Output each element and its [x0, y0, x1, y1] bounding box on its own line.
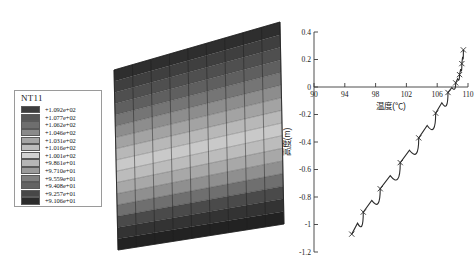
x-axis-tick-label: 94: [341, 90, 349, 99]
x-axis-title: 温度(℃): [376, 101, 406, 111]
y-axis-title: 高度(m): [282, 128, 292, 157]
temperature-profile-chart: 9094981021061100.40.20-0.2-0.4-0.6-0.8-1…: [280, 14, 475, 264]
nt11-legend-panel: NT11 +1.092e+02+1.077e+02+1.062e+02+1.04…: [14, 90, 102, 207]
legend-color-swatch: [21, 167, 40, 174]
legend-entry: +1.077e+02: [21, 114, 76, 122]
chart-axes: 9094981021061100.40.20-0.2-0.4-0.6-0.8-1…: [299, 28, 474, 257]
legend-entry: +9.861e+01: [21, 159, 76, 167]
legend-color-swatch: [21, 129, 40, 136]
y-axis-tick-label: -0.2: [299, 110, 311, 119]
nt11-contour-mesh: [112, 18, 292, 252]
legend-entry-label: +9.408e+01: [45, 182, 76, 189]
legend-entry-label: +9.559e+01: [45, 175, 76, 182]
legend-color-swatch: [21, 197, 40, 204]
x-axis-tick-label: 98: [372, 90, 380, 99]
legend-entry-label: +9.106e+01: [45, 197, 76, 204]
legend-entry: +9.257e+01: [21, 190, 76, 198]
legend-color-swatch: [21, 190, 40, 197]
legend-entry-label: +1.046e+02: [45, 129, 76, 136]
legend-entry-label: +1.077e+02: [45, 114, 76, 121]
y-axis-tick-label: -0.8: [299, 193, 311, 202]
figure-canvas: NT11 +1.092e+02+1.077e+02+1.062e+02+1.04…: [0, 0, 475, 273]
contour-band-group: [114, 22, 284, 250]
x-axis-tick-label: 102: [401, 90, 413, 99]
legend-color-swatch: [21, 106, 40, 113]
legend-color-swatch: [21, 137, 40, 144]
legend-entry: +9.710e+01: [21, 167, 76, 175]
x-axis-tick-label: 90: [310, 90, 318, 99]
y-axis-tick-label: -0.6: [299, 165, 311, 174]
legend-color-swatch: [21, 121, 40, 128]
legend-color-swatch: [21, 175, 40, 182]
legend-entry-label: +1.092e+02: [45, 106, 76, 113]
legend-entry-label: +1.016e+02: [45, 144, 76, 151]
y-axis-tick-label: -0.4: [299, 138, 311, 147]
legend-entry-label: +9.861e+01: [45, 159, 76, 166]
legend-color-swatch: [21, 144, 40, 151]
y-axis-tick-label: 0: [307, 83, 311, 92]
legend-entry: +9.408e+01: [21, 182, 76, 190]
profile-curve: [352, 50, 464, 234]
legend-entry: +1.031e+02: [21, 136, 76, 144]
x-axis-tick-label: 110: [462, 90, 473, 99]
legend-entry: +1.001e+02: [21, 152, 76, 160]
legend-entry-list: +1.092e+02+1.077e+02+1.062e+02+1.046e+02…: [21, 106, 76, 205]
y-axis-tick-label: -1: [305, 220, 312, 229]
legend-color-swatch: [21, 182, 40, 189]
y-axis-tick-label: 0.4: [302, 28, 312, 37]
legend-entry-label: +9.257e+01: [45, 190, 76, 197]
legend-entry: +1.092e+02: [21, 106, 76, 114]
legend-color-swatch: [21, 114, 40, 121]
legend-entry-label: +9.710e+01: [45, 167, 76, 174]
legend-entry-label: +1.031e+02: [45, 137, 76, 144]
legend-entry: +9.106e+01: [21, 197, 76, 205]
legend-entry-label: +1.001e+02: [45, 152, 76, 159]
legend-entry: +1.016e+02: [21, 144, 76, 152]
legend-entry: +1.062e+02: [21, 121, 76, 129]
x-axis-tick-label: 106: [432, 90, 444, 99]
legend-entry-label: +1.062e+02: [45, 121, 76, 128]
chart-data-series: [349, 47, 466, 236]
legend-color-swatch: [21, 152, 40, 159]
legend-entry: +9.559e+01: [21, 174, 76, 182]
legend-entry: +1.046e+02: [21, 129, 76, 137]
y-axis-tick-label: -1.2: [299, 248, 311, 257]
y-axis-tick-label: 0.2: [302, 55, 312, 64]
legend-color-swatch: [21, 159, 40, 166]
legend-title: NT11: [21, 93, 43, 103]
